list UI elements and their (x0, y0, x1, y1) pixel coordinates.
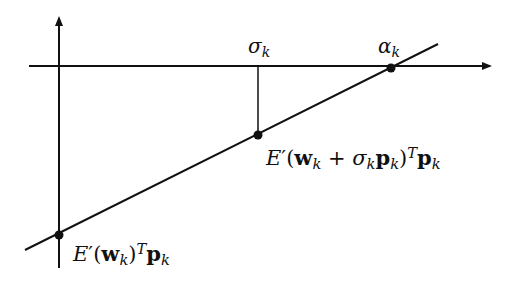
slope-at-origin-label: E′(wk)Tpk (73, 242, 170, 268)
point-sigma-slope (254, 131, 263, 140)
sigma-label: σk (248, 36, 270, 59)
slope-at-sigma-label: E′(wk + σkpk)Tpk (266, 146, 441, 172)
sigma-symbol: σ (248, 34, 262, 58)
point-origin-slope (55, 231, 64, 240)
alpha-subscript: k (392, 44, 400, 60)
sigma-subscript: k (262, 44, 270, 60)
point-alpha-root (387, 64, 396, 73)
alpha-symbol: α (378, 34, 392, 58)
alpha-label: αk (378, 36, 400, 59)
